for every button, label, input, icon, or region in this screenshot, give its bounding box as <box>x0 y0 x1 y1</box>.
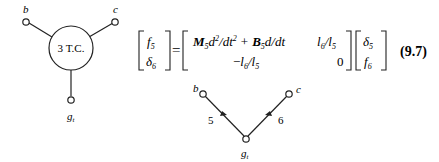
right-node-g-label: gt <box>241 147 250 161</box>
matrix-right-bracket <box>346 31 351 70</box>
edge-c <box>89 23 113 37</box>
node-c-label: c <box>113 3 118 15</box>
node-g-terminal <box>68 97 74 103</box>
node-b-terminal <box>200 91 206 97</box>
lhs-delta6: δ6 <box>146 54 156 71</box>
node-c-terminal <box>112 19 118 25</box>
node-b-terminal <box>23 19 29 25</box>
node-g-label: gt <box>67 110 76 124</box>
node-c-terminal <box>286 91 292 97</box>
matrix-r1c2: l6/l5 <box>317 34 336 51</box>
equals-sign: = <box>172 42 180 58</box>
figure-canvas: 3 T.C. b c gt f5 δ6 = M5d2/dt2+B5d/dt l6… <box>0 0 439 162</box>
matrix-r2c1: −l6/l5 <box>233 54 259 71</box>
three-terminal-component-graph <box>23 19 118 103</box>
lhs-f5: f5 <box>147 34 155 51</box>
right-node-c-label: c <box>296 83 301 95</box>
component-label: 3 T.C. <box>58 42 85 54</box>
edge-5-label: 5 <box>208 114 214 126</box>
lhs-right-bracket <box>165 31 170 70</box>
matrix-r1c1: M5d2/dt2+B5d/dt <box>192 34 285 51</box>
rhs-right-bracket <box>381 31 386 70</box>
rhs-delta5: δ5 <box>363 34 373 51</box>
lhs-left-bracket <box>139 31 144 70</box>
rhs-left-bracket <box>356 31 361 70</box>
matrix-left-bracket <box>183 31 188 70</box>
edge-6-label: 6 <box>278 114 284 126</box>
equation-number: (9.7) <box>400 44 427 60</box>
right-node-b-label: b <box>193 82 199 94</box>
edge-b <box>29 23 52 37</box>
rhs-f6: f6 <box>364 54 372 71</box>
node-g-terminal <box>243 136 249 142</box>
matrix-r2c2: 0 <box>337 54 344 69</box>
node-b-label: b <box>23 3 29 15</box>
